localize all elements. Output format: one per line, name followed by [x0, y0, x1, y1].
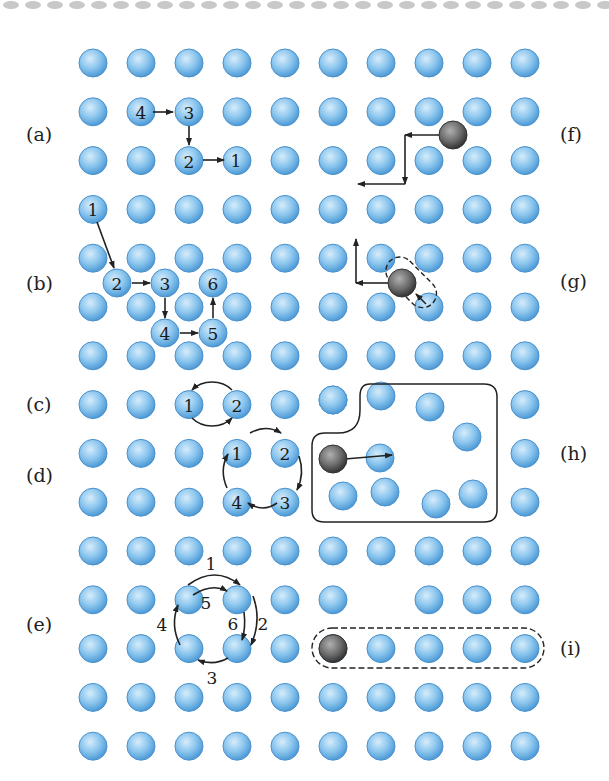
lattice-atom — [223, 244, 251, 272]
lattice-atom — [367, 683, 395, 711]
panel-d-atom-4: 4 — [232, 493, 243, 513]
panel-a-atom-4: 4 — [136, 103, 147, 123]
lattice-atom — [79, 391, 107, 419]
displaced-atom — [319, 386, 347, 414]
lattice-atom — [319, 49, 347, 77]
lattice-atom — [319, 586, 347, 614]
lattice-atom — [79, 49, 107, 77]
lattice-atom — [127, 439, 155, 467]
lattice-atom — [367, 635, 395, 663]
lattice-atom — [79, 439, 107, 467]
lattice-atom — [415, 195, 443, 223]
lattice-atom — [127, 732, 155, 760]
lattice-atom — [127, 635, 155, 663]
lattice-atom — [319, 293, 347, 321]
lattice-atom — [463, 244, 491, 272]
lattice-atom — [79, 342, 107, 370]
lattice-atom — [415, 732, 443, 760]
lattice-atom — [319, 683, 347, 711]
lattice-atom — [511, 98, 539, 126]
lattice-atom — [175, 537, 203, 565]
lattice-atom — [511, 391, 539, 419]
lattice-atom — [367, 537, 395, 565]
lattice-atom — [511, 635, 539, 663]
lattice-atom — [175, 586, 203, 614]
lattice-atom — [79, 244, 107, 272]
panel-b-atom-6: 6 — [208, 274, 219, 294]
impurity-atom-f — [439, 121, 467, 149]
panel-c-atom-1: 1 — [184, 396, 195, 416]
lattice-atom — [415, 342, 443, 370]
panel-d-atom-1: 1 — [232, 444, 243, 464]
panel-label-c: (c) — [26, 393, 51, 415]
panel-e-step-2: 2 — [258, 614, 269, 634]
lattice-atom — [367, 195, 395, 223]
lattice-atom — [415, 244, 443, 272]
lattice-atom — [367, 293, 395, 321]
displaced-atom — [459, 480, 487, 508]
lattice-atom — [127, 586, 155, 614]
displaced-atom — [422, 490, 450, 518]
decorative-top-border — [0, 0, 609, 10]
displaced-atom — [416, 393, 444, 421]
lattice-atom — [127, 147, 155, 175]
lattice-atom — [223, 49, 251, 77]
displaced-atom — [366, 444, 394, 472]
panel-a-atom-3: 3 — [184, 103, 195, 123]
panel-b-atom-3: 3 — [160, 274, 171, 294]
lattice-atom — [271, 98, 299, 126]
lattice-atom — [415, 586, 443, 614]
lattice-atom — [175, 683, 203, 711]
lattice-atom — [79, 537, 107, 565]
lattice-atom — [511, 732, 539, 760]
lattice-atom — [367, 342, 395, 370]
lattice-atom — [271, 244, 299, 272]
lattice-atom — [223, 342, 251, 370]
lattice-atom — [175, 195, 203, 223]
lattice-atom — [415, 98, 443, 126]
panel-b-atom-4: 4 — [160, 324, 171, 344]
panel-label-e: (e) — [26, 613, 52, 635]
lattice-atom — [511, 195, 539, 223]
lattice-atom — [463, 586, 491, 614]
panel-e-step-6: 6 — [228, 614, 239, 634]
lattice-atom — [271, 195, 299, 223]
lattice-atom — [79, 488, 107, 516]
lattice-atom — [367, 98, 395, 126]
lattice-atom — [175, 293, 203, 321]
lattice-atom — [463, 342, 491, 370]
lattice-atom — [175, 49, 203, 77]
panel-e-step-3: 3 — [207, 668, 218, 688]
lattice-atom — [319, 537, 347, 565]
lattice-atom — [319, 244, 347, 272]
lattice-atom — [271, 537, 299, 565]
lattice-atom — [127, 683, 155, 711]
lattice-atom — [415, 147, 443, 175]
lattice-atom — [463, 98, 491, 126]
lattice-atom — [79, 147, 107, 175]
lattice-atom — [463, 635, 491, 663]
lattice-atom — [127, 342, 155, 370]
lattice-atom — [367, 49, 395, 77]
lattice-atom — [463, 683, 491, 711]
lattice-atom — [79, 732, 107, 760]
panel-e-step-4: 4 — [157, 615, 168, 635]
lattice-atoms — [79, 49, 539, 760]
panel-b-atom-1: 1 — [88, 200, 99, 220]
lattice-atom — [271, 732, 299, 760]
lattice-atom — [175, 244, 203, 272]
displaced-atom — [329, 482, 357, 510]
lattice-atom — [271, 49, 299, 77]
lattice-atom — [415, 683, 443, 711]
lattice-atom — [175, 488, 203, 516]
lattice-atom — [127, 244, 155, 272]
lattice-atom — [271, 147, 299, 175]
impurity-atom-h — [319, 445, 347, 473]
lattice-atom — [223, 586, 251, 614]
lattice-atom — [223, 537, 251, 565]
panel-label-g: (g) — [560, 270, 587, 292]
displaced-atom — [367, 382, 395, 410]
panel-label-i: (i) — [560, 637, 581, 659]
lattice-atom — [175, 635, 203, 663]
lattice-atom — [511, 293, 539, 321]
